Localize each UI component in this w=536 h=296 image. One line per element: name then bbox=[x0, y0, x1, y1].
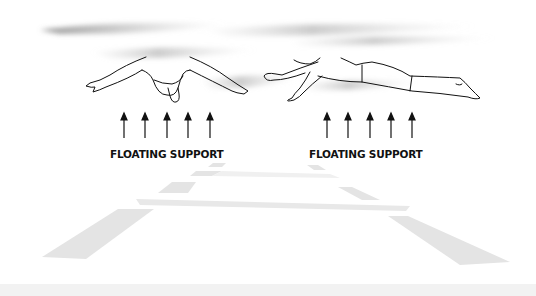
floating-support-label-side: FLOATING SUPPORT bbox=[309, 148, 423, 160]
floating-support-arrows-side bbox=[324, 113, 415, 138]
bottom-band bbox=[0, 284, 536, 296]
pool-floor bbox=[42, 163, 510, 265]
floating-support-arrows-front bbox=[121, 113, 213, 138]
floating-support-label-front: FLOATING SUPPORT bbox=[110, 148, 224, 160]
illustration-canvas bbox=[0, 0, 536, 296]
swimmer-side-view bbox=[264, 58, 480, 101]
floating-support-illustration: FLOATING SUPPORT FLOATING SUPPORT bbox=[0, 0, 536, 296]
